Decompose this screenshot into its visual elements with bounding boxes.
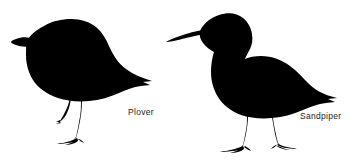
plover-rear-leg-path bbox=[58, 98, 71, 123]
plover-label: Plover bbox=[128, 108, 154, 117]
sandpiper-body-path bbox=[200, 13, 337, 118]
shorebird-silhouette-figure: Plover Sandpiper bbox=[0, 0, 359, 162]
bird-silhouettes-illustration bbox=[0, 0, 359, 162]
plover-silhouette bbox=[11, 19, 152, 145]
sandpiper-silhouette bbox=[166, 13, 337, 153]
plover-rear-foot-path bbox=[56, 120, 61, 124]
sandpiper-rear-foot-path bbox=[220, 146, 251, 153]
plover-front-foot-path bbox=[57, 138, 84, 145]
plover-body-path bbox=[26, 19, 152, 101]
plover-front-leg-path bbox=[74, 100, 82, 139]
sandpiper-rear-leg-path bbox=[241, 116, 248, 147]
sandpiper-front-foot-path bbox=[271, 144, 297, 150]
sandpiper-label: Sandpiper bbox=[300, 112, 341, 121]
sandpiper-front-leg-path bbox=[272, 117, 280, 145]
plover-beak-path bbox=[11, 37, 34, 46]
sandpiper-beak-path bbox=[166, 30, 206, 42]
